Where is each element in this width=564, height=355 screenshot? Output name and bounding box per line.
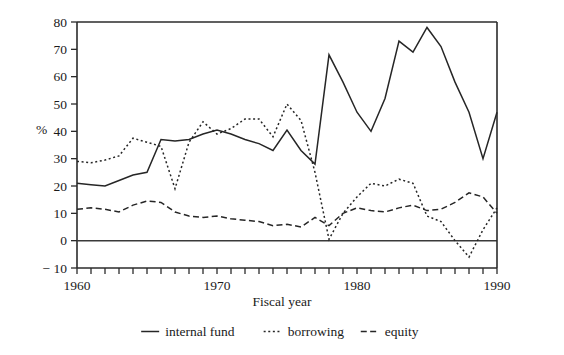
legend-label-internal-fund: internal fund — [165, 324, 235, 339]
chart-figure: 80706050403020100− 10 1960197019801990 %… — [0, 0, 564, 355]
y-axis-ticks — [71, 22, 77, 268]
x-tick-label: 1960 — [64, 278, 91, 293]
y-tick-label: 20 — [54, 179, 68, 194]
y-tick-label: 70 — [54, 42, 68, 57]
x-tick-label: 1990 — [484, 278, 511, 293]
line-chart-canvas: 80706050403020100− 10 1960197019801990 %… — [0, 0, 564, 355]
y-tick-label: 80 — [54, 15, 68, 30]
y-tick-label: 60 — [54, 69, 68, 84]
y-tick-label: 10 — [54, 206, 68, 221]
series-line-internal-fund — [77, 27, 497, 186]
legend-label-borrowing: borrowing — [288, 324, 344, 339]
y-axis-label: % — [36, 122, 47, 137]
chart-legend: internal fundborrowingequity — [141, 324, 419, 339]
data-series-group — [77, 27, 497, 257]
y-axis-tick-labels: 80706050403020100− 10 — [43, 15, 68, 276]
y-tick-label: 30 — [54, 151, 68, 166]
legend-label-equity: equity — [385, 324, 419, 339]
x-axis-ticks — [77, 268, 497, 274]
y-tick-label: 50 — [54, 97, 68, 112]
y-tick-label: 0 — [60, 233, 67, 248]
x-tick-label: 1970 — [204, 278, 231, 293]
y-tick-label: − 10 — [43, 261, 68, 276]
y-tick-label: 40 — [54, 124, 68, 139]
x-tick-label: 1980 — [344, 278, 371, 293]
series-line-equity — [77, 193, 497, 227]
series-line-borrowing — [77, 104, 497, 257]
x-axis-tick-labels: 1960197019801990 — [64, 278, 511, 293]
x-axis-label: Fiscal year — [253, 294, 312, 309]
